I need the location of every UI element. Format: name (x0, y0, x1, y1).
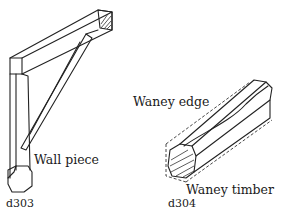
label-wall-piece: Wall piece (34, 154, 99, 167)
figure-id-d303: d303 (6, 198, 34, 209)
wall-piece (8, 74, 32, 192)
diagonal-brace (21, 30, 98, 150)
top-beam (10, 10, 112, 74)
label-waney-edge: Waney edge (133, 96, 210, 109)
figure-id-d304: d304 (168, 198, 196, 209)
label-waney-timber: Waney timber (186, 184, 274, 197)
